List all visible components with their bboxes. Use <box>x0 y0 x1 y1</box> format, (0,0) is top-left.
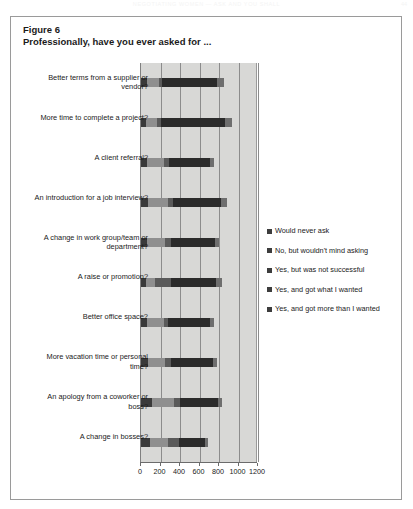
x-axis-tick <box>160 463 161 466</box>
bar-segment[interactable] <box>180 398 218 407</box>
x-axis-tick <box>140 463 141 466</box>
x-axis-tick-labels: 020040060080010001200 <box>130 467 275 479</box>
bar-row <box>141 422 258 462</box>
bar-segment[interactable] <box>179 438 205 447</box>
category-label: Better terms from a supplier or vendor? <box>27 73 148 92</box>
x-axis-tick <box>218 463 219 466</box>
stacked-bar[interactable] <box>141 318 214 327</box>
bar-row <box>141 382 258 422</box>
x-axis-tick <box>199 463 200 466</box>
bar-row <box>141 263 258 303</box>
bar-rows <box>141 63 258 462</box>
legend-swatch-icon <box>267 287 272 292</box>
legend-item[interactable]: Would never ask <box>267 227 399 235</box>
bar-segment[interactable] <box>161 118 225 127</box>
legend-swatch-icon <box>267 307 272 312</box>
bar-row <box>141 63 258 103</box>
bar-segment[interactable] <box>173 198 222 207</box>
chart-legend: Would never askNo, but wouldn't mind ask… <box>267 227 399 325</box>
bar-segment[interactable] <box>162 78 217 87</box>
bar-row <box>141 103 258 143</box>
page-number: 44 <box>401 1 407 7</box>
bar-segment[interactable] <box>210 158 214 167</box>
legend-item[interactable]: Yes, but was not successful <box>267 266 399 274</box>
bar-segment[interactable] <box>152 398 174 407</box>
bar-segment[interactable] <box>147 318 164 327</box>
category-label: An introduction for a job interview? <box>27 193 148 203</box>
bar-segment[interactable] <box>171 278 216 287</box>
legend-label: Yes, but was not successful <box>275 266 364 274</box>
bar-segment[interactable] <box>225 118 231 127</box>
bar-segment[interactable] <box>213 358 217 367</box>
category-label: A change in bosses? <box>27 432 148 442</box>
x-axis-tick-label: 1200 <box>244 467 270 476</box>
stacked-bar[interactable] <box>141 78 224 87</box>
bar-row <box>141 302 258 342</box>
category-label: More vacation time or personal time? <box>27 352 148 371</box>
bar-segment[interactable] <box>216 278 222 287</box>
bar-segment[interactable] <box>155 278 171 287</box>
bar-row <box>141 143 258 183</box>
category-label: A raise or promotion? <box>27 272 148 282</box>
legend-label: Yes, and got more than I wanted <box>275 305 380 313</box>
stacked-bar[interactable] <box>141 358 217 367</box>
bar-segment[interactable] <box>168 438 179 447</box>
gridline <box>258 63 259 462</box>
bar-segment[interactable] <box>147 238 166 247</box>
legend-swatch-icon <box>267 268 272 273</box>
bar-segment[interactable] <box>217 78 224 87</box>
bar-segment[interactable] <box>205 438 208 447</box>
bar-segment[interactable] <box>215 238 219 247</box>
stacked-bar[interactable] <box>141 158 214 167</box>
x-axis <box>140 462 257 466</box>
running-head-text: NEGOTIATING WOMEN — ASK AND YOU SHALL <box>133 1 280 7</box>
stacked-bar[interactable] <box>141 278 222 287</box>
running-head: NEGOTIATING WOMEN — ASK AND YOU SHALL <box>0 1 413 12</box>
bar-segment[interactable] <box>150 438 169 447</box>
x-axis-tick <box>238 463 239 466</box>
figure-frame: Figure 6 Professionally, have you ever a… <box>10 16 402 500</box>
category-label: A client referral? <box>27 153 148 163</box>
bar-row <box>141 183 258 223</box>
bar-segment[interactable] <box>148 358 165 367</box>
category-label: A change in work group/team or departmen… <box>27 233 148 252</box>
bar-segment[interactable] <box>169 158 210 167</box>
bar-row <box>141 342 258 382</box>
bar-segment[interactable] <box>171 238 215 247</box>
category-label: An apology from a coworker or boss? <box>27 392 148 411</box>
legend-item[interactable]: No, but wouldn't mind asking <box>267 247 399 255</box>
stacked-bar[interactable] <box>141 118 232 127</box>
plot-area <box>140 63 257 462</box>
legend-swatch-icon <box>267 248 272 253</box>
x-axis-tick <box>257 463 258 466</box>
bar-segment[interactable] <box>218 398 222 407</box>
bar-segment[interactable] <box>171 358 212 367</box>
bar-segment[interactable] <box>147 78 159 87</box>
bar-row <box>141 223 258 263</box>
stacked-bar[interactable] <box>141 398 222 407</box>
legend-swatch-icon <box>267 229 272 234</box>
bar-segment[interactable] <box>221 198 226 207</box>
stacked-bar[interactable] <box>141 438 208 447</box>
bar-segment[interactable] <box>148 198 168 207</box>
legend-label: Would never ask <box>275 227 329 235</box>
stacked-bar[interactable] <box>141 198 227 207</box>
legend-label: Yes, and got what I wanted <box>275 286 362 294</box>
category-label: More time to complete a project? <box>27 113 148 123</box>
bar-segment[interactable] <box>210 318 214 327</box>
stacked-bar[interactable] <box>141 238 219 247</box>
category-label: Better office space? <box>27 312 148 322</box>
bar-segment[interactable] <box>168 318 210 327</box>
legend-item[interactable]: Yes, and got more than I wanted <box>267 305 399 313</box>
x-axis-tick <box>179 463 180 466</box>
bar-segment[interactable] <box>147 158 164 167</box>
legend-label: No, but wouldn't mind asking <box>275 247 368 255</box>
legend-item[interactable]: Yes, and got what I wanted <box>267 286 399 294</box>
